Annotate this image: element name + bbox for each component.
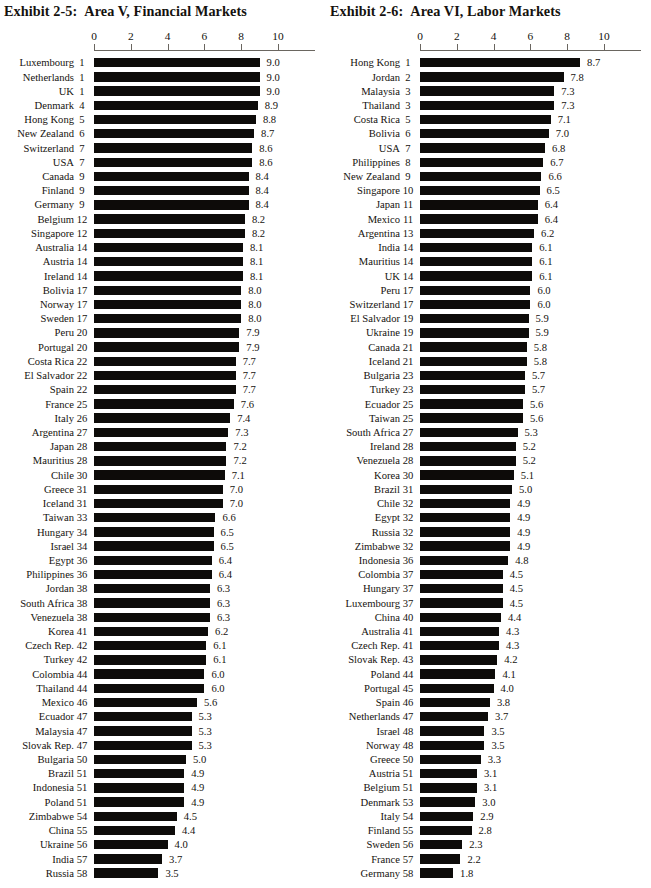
value-label: 4.1: [502, 668, 515, 681]
x-axis-tick-label: 10: [598, 30, 609, 43]
value-label: 6.7: [550, 156, 563, 169]
country-label: Mexico: [368, 213, 400, 226]
value-label: 6.5: [221, 526, 234, 539]
exhibit-number: Exhibit 2-5:: [4, 3, 77, 19]
value-label: 5.2: [523, 440, 536, 453]
bar-row: Malaysia475.3: [0, 724, 325, 738]
country-label: Iceland: [369, 355, 400, 368]
rank-label: 53: [400, 796, 416, 809]
country-label: Hong Kong: [24, 113, 74, 126]
x-axis-tick-label: 4: [491, 30, 497, 43]
country-label: El Salvador: [350, 312, 400, 325]
bar-row: France572.2: [326, 852, 651, 866]
bar: [420, 527, 510, 536]
bar: [420, 470, 514, 479]
value-label: 4.9: [517, 526, 530, 539]
country-label: Germany: [35, 198, 74, 211]
bar-row: Poland444.1: [326, 667, 651, 681]
value-label: 8.0: [248, 284, 261, 297]
value-label: 7.8: [571, 71, 584, 84]
country-label: Brazil: [374, 483, 400, 496]
bar: [94, 286, 241, 295]
rank-label: 4: [74, 99, 90, 112]
value-label: 4.5: [510, 582, 523, 595]
country-label: Netherlands: [349, 710, 400, 723]
bar-rows: Luxembourg19.0Netherlands19.0UK19.0Denma…: [0, 56, 325, 881]
bar-row: Mexico116.4: [326, 212, 651, 226]
country-label: Czech Rep.: [25, 639, 74, 652]
country-label: Hungary: [37, 526, 74, 539]
bar-row: Costa Rica57.1: [326, 113, 651, 127]
bar-row: Russia583.5: [0, 866, 325, 880]
value-label: 4.5: [510, 568, 523, 581]
country-label: India: [52, 853, 74, 866]
bar: [94, 840, 168, 849]
bar: [94, 541, 214, 550]
rank-label: 51: [74, 767, 90, 780]
country-label: China: [49, 824, 74, 837]
value-label: 7.6: [241, 398, 254, 411]
rank-label: 54: [74, 810, 90, 823]
bar: [420, 840, 462, 849]
bar-row: Hungary346.5: [0, 525, 325, 539]
bar-row: UK146.1: [326, 269, 651, 283]
country-label: New Zealand: [17, 127, 74, 140]
bar: [420, 200, 538, 209]
bar-row: Greece317.0: [0, 483, 325, 497]
country-label: Slovak Rep.: [348, 653, 400, 666]
value-label: 5.6: [530, 398, 543, 411]
rank-label: 20: [74, 326, 90, 339]
rank-label: 6: [74, 127, 90, 140]
rank-label: 11: [400, 213, 416, 226]
bar-row: Korea305.1: [326, 468, 651, 482]
bar-row: South Africa275.3: [326, 426, 651, 440]
bar-row: Israel346.5: [0, 539, 325, 553]
country-label: Turkey: [44, 653, 74, 666]
country-label: Belgium: [38, 213, 75, 226]
country-label: UK: [59, 85, 74, 98]
rank-label: 19: [400, 326, 416, 339]
exhibit-title-text: Area V, Financial Markets: [84, 3, 247, 19]
bar-row: Spain463.8: [326, 696, 651, 710]
value-label: 6.0: [211, 668, 224, 681]
rank-label: 12: [74, 213, 90, 226]
bar-row: China404.4: [326, 611, 651, 625]
chart-panel-financial-markets: Exhibit 2-5:Area V, Financial Markets 02…: [0, 0, 325, 888]
bar: [420, 115, 551, 124]
value-label: 5.1: [521, 469, 534, 482]
country-label: Italy: [381, 810, 400, 823]
rank-label: 45: [400, 682, 416, 695]
rank-label: 25: [74, 398, 90, 411]
exhibit-page: Exhibit 2-5:Area V, Financial Markets 02…: [0, 0, 651, 888]
rank-label: 17: [74, 298, 90, 311]
bar: [420, 214, 538, 223]
country-label: Hong Kong: [350, 56, 400, 69]
x-axis: 0246810: [326, 30, 651, 56]
bar-row: Ireland148.1: [0, 269, 325, 283]
country-label: Venezuela: [356, 454, 400, 467]
bar-row: Czech Rep.426.1: [0, 639, 325, 653]
bar-row: Switzerland176.0: [326, 298, 651, 312]
bar: [420, 229, 534, 238]
rank-label: 38: [74, 597, 90, 610]
rank-label: 26: [74, 412, 90, 425]
bar-row: Japan116.4: [326, 198, 651, 212]
country-label: Spain: [50, 383, 74, 396]
bar: [420, 712, 488, 721]
country-label: South Africa: [346, 426, 400, 439]
country-label: Thailand: [36, 682, 74, 695]
rank-label: 31: [400, 483, 416, 496]
value-label: 4.9: [191, 767, 204, 780]
value-label: 4.5: [184, 810, 197, 823]
rank-label: 38: [74, 611, 90, 624]
rank-label: 48: [400, 739, 416, 752]
bar-row: Austria513.1: [326, 767, 651, 781]
value-label: 6.3: [217, 582, 230, 595]
value-label: 3.7: [169, 853, 182, 866]
x-axis-tick: [94, 44, 95, 50]
country-label: Philippines: [352, 156, 400, 169]
rank-label: 40: [400, 611, 416, 624]
country-label: Austria: [43, 255, 74, 268]
bar: [420, 314, 529, 323]
value-label: 4.9: [517, 511, 530, 524]
